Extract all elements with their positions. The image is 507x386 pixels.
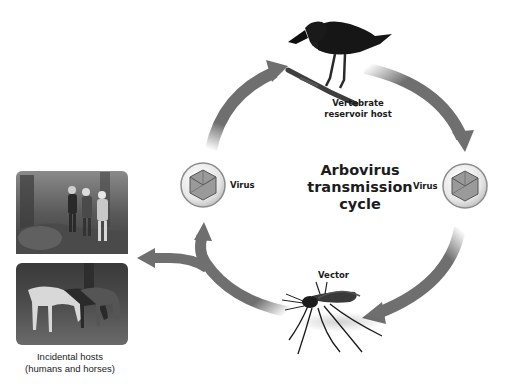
arrow-virus-to-vector (362, 228, 460, 324)
arbovirus-cycle-diagram: Arbovirus transmission cycle Vertebrate … (0, 0, 507, 386)
reservoir-host-label: Vertebrate reservoir host (318, 98, 398, 120)
humans-walking-photo (16, 171, 128, 254)
arrow-virus-to-reservoir (211, 60, 288, 150)
virus-left-icon (181, 163, 225, 207)
crow-icon (288, 21, 392, 104)
diagram-title: Arbovirus transmission cycle (300, 162, 420, 213)
arrow-vector-to-virus-and-hosts (137, 222, 288, 312)
horses-grazing-photo (16, 263, 128, 345)
virus-left-label: Virus (230, 180, 255, 191)
mosquito-icon (282, 282, 385, 354)
virus-right-label: Virus (413, 181, 438, 192)
incidental-hosts-caption: Incidental hosts (humans and horses) (0, 351, 140, 375)
vector-label: Vector (318, 270, 349, 281)
virus-right-icon (443, 164, 487, 208)
